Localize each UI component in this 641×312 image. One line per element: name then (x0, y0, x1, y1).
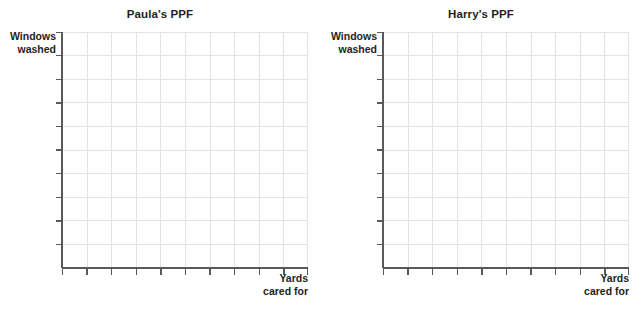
y-axis-ticks-paula (56, 33, 62, 245)
plot-area-harry (383, 32, 629, 268)
chart-title-harry: Harry's PPF (321, 8, 641, 20)
chart-panel-harry: Harry's PPF Windows washed (321, 0, 641, 312)
plot-wrap-harry (383, 32, 629, 268)
plot-area-paula (62, 32, 308, 268)
x-axis-label-line2: cared for (263, 285, 308, 297)
axes-paula (54, 30, 316, 282)
y-axis-label-line2: washed (338, 43, 377, 55)
x-axis-label-line1: Yards (279, 272, 308, 284)
chart-panel-paula: Paula's PPF Windows washed (0, 0, 320, 312)
y-axis-label-line2: washed (17, 43, 56, 55)
x-axis-label-line1: Yards (600, 272, 629, 284)
axes-harry (375, 30, 637, 282)
figure-canvas: Paula's PPF Windows washed (0, 0, 641, 312)
x-axis-label-harry: Yards cared for (521, 272, 629, 297)
y-axis-label-line1: Windows (331, 30, 377, 42)
x-axis-label-paula: Yards cared for (200, 272, 308, 297)
y-axis-label-paula: Windows washed (2, 30, 56, 55)
plot-wrap-paula (62, 32, 308, 268)
x-axis-label-line2: cared for (584, 285, 629, 297)
y-axis-label-harry: Windows washed (323, 30, 377, 55)
chart-title-paula: Paula's PPF (0, 8, 320, 20)
y-axis-label-line1: Windows (10, 30, 56, 42)
y-axis-ticks-harry (377, 33, 383, 245)
